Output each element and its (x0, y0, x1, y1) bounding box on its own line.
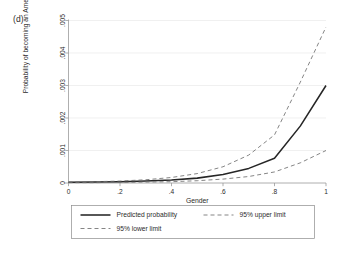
x-tick-label: 0 (67, 188, 71, 195)
legend-label: Predicted probability (117, 211, 178, 219)
chart-legend: Predicted probability95% upper limit95% … (72, 206, 315, 239)
legend-label: 95% lower limit (117, 225, 162, 232)
y-tick-label: .003 (59, 79, 66, 92)
y-tick-label: .001 (59, 144, 66, 157)
x-tick-label: 1 (324, 188, 328, 195)
x-tick-label: .8 (272, 188, 278, 195)
y-tick-label: .004 (59, 46, 66, 59)
x-tick-label: .6 (220, 188, 226, 195)
y-tick-label: .002 (59, 111, 66, 124)
gridlines-group (69, 21, 327, 151)
x-axis-title: Gender (186, 197, 209, 204)
y-axis-ticks-group: 0.001.002.003.004.005 (59, 14, 69, 185)
x-tick-label: .4 (169, 188, 175, 195)
data-series-group (69, 27, 327, 183)
chart-svg: 0.001.002.003.004.005 0.2.4.6.81 Gender … (0, 0, 343, 260)
legend-label: 95% upper limit (240, 211, 286, 219)
x-tick-label: .2 (117, 188, 123, 195)
y-tick-label: .005 (59, 14, 66, 27)
x-axis-ticks-group: 0.2.4.6.81 (67, 183, 329, 195)
y-tick-label: 0 (59, 181, 66, 185)
series-line (69, 27, 327, 182)
figure-panel-d: (d) Probability of becoming an American … (0, 0, 343, 260)
